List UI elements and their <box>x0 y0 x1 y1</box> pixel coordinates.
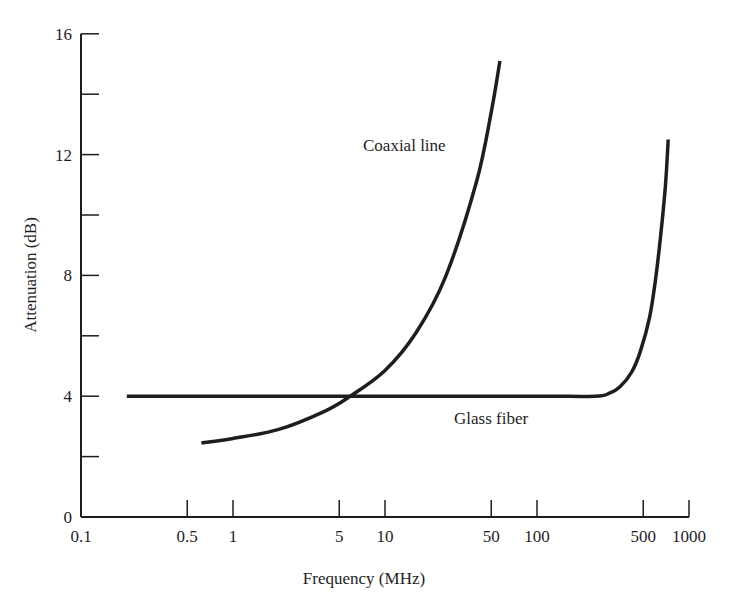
coaxial-line-curve <box>201 61 500 443</box>
x-tick-label: 100 <box>524 527 550 546</box>
x-tick-label: 10 <box>377 527 394 546</box>
x-tick-label: 1000 <box>672 527 706 546</box>
x-tick-label: 0.5 <box>177 527 198 546</box>
x-tick-label: 0.1 <box>70 527 91 546</box>
y-tick-label: 4 <box>64 387 73 406</box>
x-tick-label: 5 <box>335 527 344 546</box>
y-axis-title: Attenuation (dB) <box>21 217 40 333</box>
axes: 0.10.515105010050010000481216 <box>55 25 706 546</box>
y-tick-label: 12 <box>55 146 72 165</box>
y-tick-label: 8 <box>64 266 73 285</box>
y-tick-label: 0 <box>64 508 73 527</box>
x-tick-label: 50 <box>483 527 500 546</box>
x-tick-label: 500 <box>630 527 656 546</box>
attenuation-chart: 0.10.515105010050010000481216 Coaxial li… <box>0 0 731 606</box>
series-layer <box>127 61 668 443</box>
glass-fiber-label: Glass fiber <box>454 409 528 428</box>
coaxial-line-label: Coaxial line <box>363 136 446 155</box>
x-tick-label: 1 <box>229 527 238 546</box>
x-axis-title: Frequency (MHz) <box>303 569 425 588</box>
y-tick-label: 16 <box>55 25 72 44</box>
